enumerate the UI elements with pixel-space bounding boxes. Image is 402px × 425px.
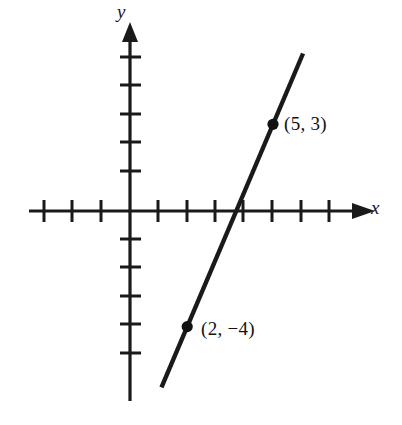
point-label-5-3: (5, 3) xyxy=(284,114,327,133)
data-point-5-3 xyxy=(267,119,278,130)
x-axis-group xyxy=(29,200,375,222)
data-point-2-neg4 xyxy=(182,321,193,332)
coordinate-plane-svg xyxy=(0,0,402,425)
y-axis-label: y xyxy=(117,2,125,21)
graph-figure: y x (5, 3) (2, −4) xyxy=(0,0,402,425)
x-axis-label: x xyxy=(371,198,379,217)
point-label-2-neg4: (2, −4) xyxy=(201,319,255,338)
y-axis-arrowhead xyxy=(122,22,138,42)
